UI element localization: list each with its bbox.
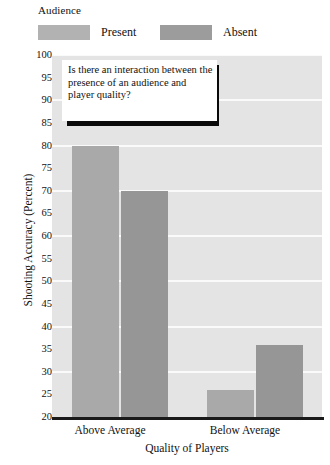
y-tick-label-20: 20 [8,412,52,422]
y-tick-label-55: 55 [8,254,52,264]
bar-present-below-average [207,390,254,417]
annotation-text: Is there an interaction between the pres… [62,60,217,121]
y-tick-label-100: 100 [8,50,52,60]
chart-legend: Audience Present Absent [0,0,330,52]
y-tick-label-50: 50 [8,276,52,286]
y-tick-label-45: 45 [8,299,52,309]
y-tick-label-80: 80 [8,141,52,151]
x-tick-label-above-average: Above Average [50,424,170,436]
legend-label-absent: Absent [223,25,257,40]
legend-title: Audience [38,4,81,16]
legend-swatch-absent [160,25,212,40]
y-tick-label-40: 40 [8,322,52,332]
x-tick-label-below-average: Below Average [185,424,305,436]
y-tick-label-35: 35 [8,344,52,354]
bar-absent-above-average [121,191,168,417]
bar-present-above-average [72,146,119,418]
y-tick-label-30: 30 [8,367,52,377]
y-tick-label-95: 95 [8,73,52,83]
y-tick-label-60: 60 [8,231,52,241]
y-tick-label-90: 90 [8,95,52,105]
legend-entry-present: Present [38,22,136,38]
y-tick-label-85: 85 [8,118,52,128]
y-tick-label-70: 70 [8,186,52,196]
legend-swatch-present [38,25,90,40]
y-tick-label-65: 65 [8,208,52,218]
x-axis-line [52,417,324,420]
annotation-callout: Is there an interaction between the pres… [62,60,214,121]
gridline-100 [52,55,322,56]
x-axis-title: Quality of Players [52,442,322,454]
y-tick-label-25: 25 [8,389,52,399]
y-tick-label-75: 75 [8,163,52,173]
bar-chart: Shooting Accuracy (Percent) 100959085807… [0,52,330,465]
legend-entry-absent: Absent [160,22,257,38]
legend-label-present: Present [101,25,136,40]
bar-absent-below-average [256,345,303,417]
